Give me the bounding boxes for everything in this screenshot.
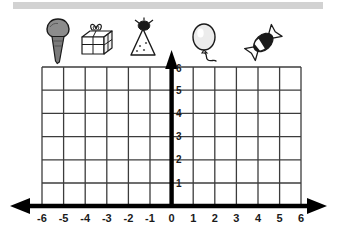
y-tick-label: 5 <box>176 85 182 96</box>
x-tick-label: -5 <box>59 212 69 224</box>
x-tick-label: 0 <box>169 212 175 224</box>
worksheet-coordinate-grid-image: -6 -5 -4 -3 -2 -1 0 1 2 3 4 5 6 1 2 3 4 … <box>0 0 337 233</box>
y-tick-label: 2 <box>176 154 182 165</box>
x-tick-label: 4 <box>255 212 262 224</box>
y-tick-label: 3 <box>176 131 182 142</box>
y-tick-label: 4 <box>176 108 182 119</box>
x-tick-label: -1 <box>145 212 155 224</box>
coordinate-plane: -6 -5 -4 -3 -2 -1 0 1 2 3 4 5 6 1 2 3 4 … <box>0 0 337 233</box>
x-tick-label: 2 <box>212 212 218 224</box>
x-tick-label: -4 <box>80 212 91 224</box>
x-tick-label: 6 <box>298 212 304 224</box>
x-tick-label: -3 <box>102 212 112 224</box>
x-axis-tick-labels: -6 -5 -4 -3 -2 -1 0 1 2 3 4 5 6 <box>37 212 304 224</box>
x-tick-label: 3 <box>233 212 239 224</box>
y-axis-tick-labels: 1 2 3 4 5 6 <box>176 63 182 189</box>
x-tick-label: -6 <box>37 212 47 224</box>
x-tick-label: -2 <box>124 212 134 224</box>
y-tick-label: 1 <box>176 178 182 189</box>
x-tick-label: 1 <box>190 212 196 224</box>
x-tick-label: 5 <box>277 212 283 224</box>
y-tick-label: 6 <box>176 63 182 74</box>
